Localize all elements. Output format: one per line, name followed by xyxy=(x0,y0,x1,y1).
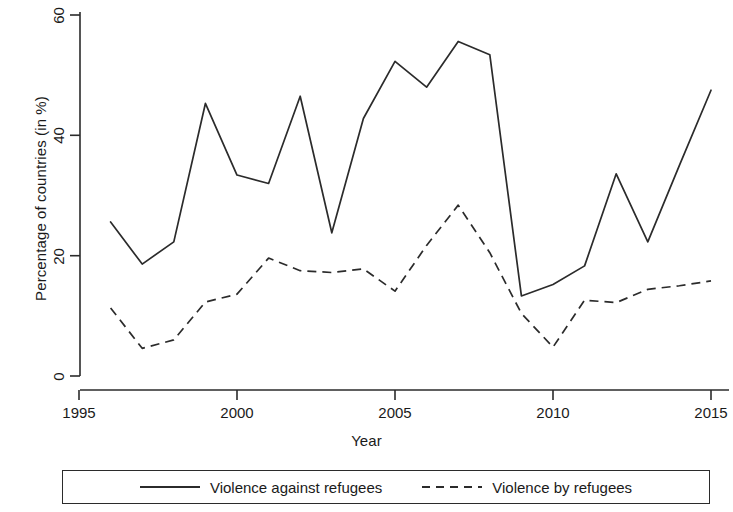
legend-entry-violence-by-refugees: Violence by refugees xyxy=(422,479,632,496)
y-axis-ticks xyxy=(70,15,80,376)
y-tick-label-40: 40 xyxy=(50,116,67,156)
x-tick-label-2015: 2015 xyxy=(676,404,733,421)
plot-area: 0 20 40 60 1995 2000 2005 2010 2015 xyxy=(0,0,733,420)
y-axis-title: Percentage of countries (in %) xyxy=(32,19,49,379)
y-tick-label-0: 0 xyxy=(50,357,67,397)
series-line-violence-against-refugees xyxy=(111,41,711,296)
y-tick-label-20: 20 xyxy=(50,237,67,277)
legend-label-violence-by-refugees: Violence by refugees xyxy=(492,479,632,496)
x-tick-label-2005: 2005 xyxy=(360,404,430,421)
legend-label-violence-against-refugees: Violence against refugees xyxy=(210,479,382,496)
y-tick-label-60: 60 xyxy=(50,0,67,36)
legend-line-solid-icon xyxy=(140,486,200,488)
line-chart-svg xyxy=(0,0,733,420)
series-line-violence-by-refugees xyxy=(111,205,711,348)
x-axis-title: Year xyxy=(0,432,733,449)
chart-legend: Violence against refugees Violence by re… xyxy=(62,470,710,504)
x-tick-label-2000: 2000 xyxy=(202,404,272,421)
chart-figure: 0 20 40 60 1995 2000 2005 2010 2015 Perc… xyxy=(0,0,733,512)
x-tick-label-1995: 1995 xyxy=(44,404,114,421)
legend-line-dashed-icon xyxy=(422,486,482,488)
x-tick-label-2010: 2010 xyxy=(518,404,588,421)
x-axis-ticks xyxy=(79,390,711,400)
legend-entry-violence-against-refugees: Violence against refugees xyxy=(140,479,382,496)
